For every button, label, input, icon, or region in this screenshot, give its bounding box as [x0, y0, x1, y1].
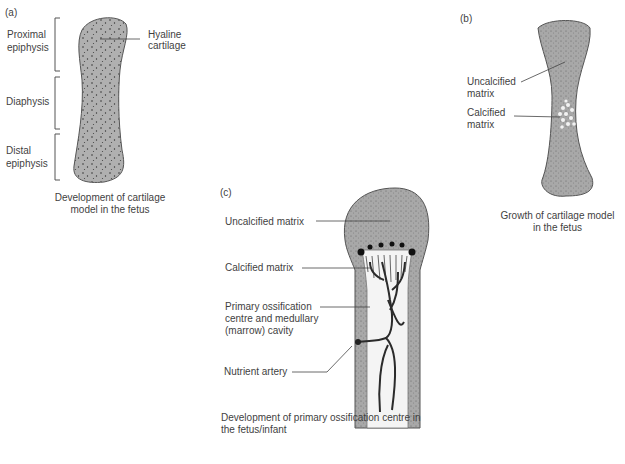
label-uncalcified-b: Uncalcified: [467, 76, 516, 88]
label-proximal: Proximal: [7, 29, 46, 41]
label-primary-c-2: centre and medullary: [225, 313, 318, 325]
cartilage-model-b: [538, 21, 593, 197]
label-calcified-b: Calcified: [467, 107, 505, 119]
label-uncalcified-c: Uncalcified matrix: [225, 216, 304, 228]
label-calcified-b-2: matrix: [467, 119, 494, 131]
nutrient-artery-entry: [355, 339, 361, 345]
caption-c-1: Development of primary ossification cent…: [221, 412, 421, 424]
label-artery-c: Nutrient artery: [224, 366, 287, 378]
cartilage-model-a: [74, 18, 127, 183]
ossification-bone-c: [344, 188, 428, 428]
label-primary-c: Primary ossification: [225, 301, 312, 313]
label-diaphysis: Diaphysis: [6, 96, 49, 108]
label-uncalcified-b-2: matrix: [467, 88, 494, 100]
label-calcified-c: Calcified matrix: [225, 262, 293, 274]
panel-b-tag: (b): [460, 13, 472, 25]
caption-c-2: the fetus/infant: [221, 424, 287, 436]
region-brackets: [55, 18, 60, 180]
panel-c-tag: (c): [220, 187, 232, 199]
label-hyaline-2: cartilage: [148, 40, 186, 52]
label-distal: Distal: [6, 145, 31, 157]
caption-a-2: model in the fetus: [30, 204, 190, 216]
label-primary-c-3: (marrow) cavity: [225, 325, 293, 337]
panel-a-tag: (a): [5, 7, 17, 19]
label-distal-2: epiphysis: [6, 158, 48, 170]
caption-b-1: Growth of cartilage model: [490, 210, 625, 222]
artery-leader-c: [292, 346, 352, 372]
label-proximal-2: epiphysis: [7, 42, 49, 54]
caption-a-1: Development of cartilage: [30, 192, 190, 204]
caption-b-2: in the fetus: [490, 222, 625, 234]
